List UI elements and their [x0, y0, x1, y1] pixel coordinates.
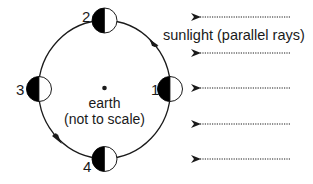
moon-4-label: 4 [83, 158, 91, 175]
moon-3-label: 3 [16, 81, 24, 98]
moon-1 [158, 77, 183, 102]
earth-label: earth [89, 95, 121, 111]
moon-phase-diagram: earth (not to scale) 1 2 3 4 sunlight (p… [0, 0, 313, 184]
earth-dot [102, 86, 107, 91]
orbit-direction-arrow-upper-right [149, 39, 159, 48]
moon-2 [92, 8, 117, 33]
moon-2-label: 2 [82, 8, 90, 25]
moon-4 [92, 147, 117, 172]
sunlight-label: sunlight (parallel rays) [163, 27, 305, 43]
moon-1-label: 1 [151, 81, 159, 98]
orbit-direction-arrow-lower-left [52, 133, 62, 144]
earth-scale-note: (not to scale) [64, 111, 145, 127]
moon-3 [26, 77, 51, 102]
